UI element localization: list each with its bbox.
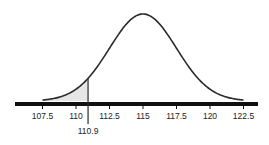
tick-label: 120 [203, 111, 217, 121]
tick-label: 115 [136, 111, 150, 121]
bell-curve [43, 14, 244, 100]
shaded-tail-area [43, 78, 89, 101]
tick-label: 110 [69, 111, 83, 121]
axis-ticks: 107.5110112.5115117.5120122.5 [32, 106, 255, 121]
normal-distribution-chart: 107.5110112.5115117.5120122.5 110.9 [0, 0, 269, 145]
tick-label: 107.5 [32, 111, 54, 121]
tick-label: 117.5 [166, 111, 187, 121]
marker-label: 110.9 [78, 126, 99, 136]
tick-label: 112.5 [99, 111, 120, 121]
x-axis [15, 102, 258, 106]
tick-label: 122.5 [233, 111, 255, 121]
